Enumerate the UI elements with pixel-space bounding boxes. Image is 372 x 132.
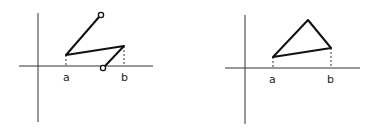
label-b: b	[327, 73, 334, 86]
label-a: a	[63, 71, 70, 84]
label-b: b	[121, 71, 128, 84]
open-endpoint-top	[98, 12, 103, 17]
graph-path	[66, 17, 124, 66]
triangle-path	[273, 20, 331, 57]
left-graph: a b	[19, 12, 153, 122]
open-endpoint-bottom	[100, 65, 105, 70]
diagram-canvas: a b a b	[0, 0, 372, 132]
right-graph: a b	[225, 15, 360, 124]
label-a: a	[269, 73, 276, 86]
